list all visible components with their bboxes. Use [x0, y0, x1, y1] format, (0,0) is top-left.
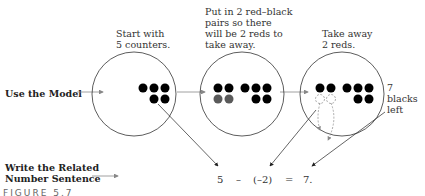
- equation-result: 7.: [303, 174, 313, 185]
- counters-step1: [139, 84, 170, 104]
- pointer-7: [312, 112, 385, 166]
- pointer-5: [158, 104, 218, 166]
- counters-step2-red: [214, 95, 234, 104]
- equation-equals: =: [285, 174, 293, 185]
- removed-reds: [316, 95, 336, 141]
- circle-step1: [92, 52, 176, 136]
- equation-minus: –: [236, 174, 241, 185]
- equation-a: 5: [217, 174, 223, 185]
- equation-b: (–2): [253, 174, 272, 185]
- circle-step2: [200, 52, 284, 136]
- pointer-neg2: [270, 110, 316, 166]
- circle-step3: [300, 52, 384, 136]
- model-diagram: [0, 0, 425, 196]
